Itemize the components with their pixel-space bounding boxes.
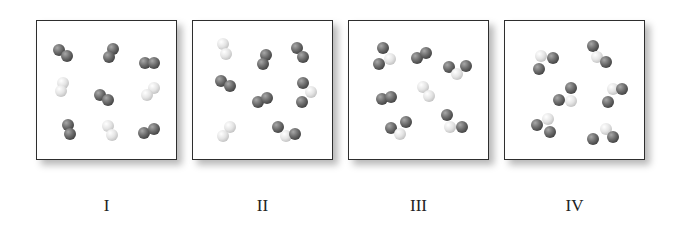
light-atom — [220, 48, 232, 60]
dark-atom — [400, 116, 412, 128]
molecule — [138, 123, 160, 139]
molecule — [141, 82, 160, 101]
dark-atom — [102, 94, 114, 106]
panel-label-iii: III — [348, 196, 489, 216]
molecule — [602, 83, 628, 108]
molecule — [385, 116, 412, 140]
dark-atom — [420, 47, 432, 59]
light-atom — [394, 128, 406, 140]
panel-iii — [348, 20, 489, 160]
dark-atom — [289, 128, 301, 140]
panel-i — [36, 20, 177, 160]
molecule — [533, 50, 559, 75]
molecule — [215, 75, 236, 92]
molecule — [376, 91, 397, 105]
dark-atom — [148, 123, 160, 135]
light-atom — [106, 129, 118, 141]
molecule — [62, 119, 76, 140]
dark-atom — [600, 56, 612, 68]
molecules-diagram-iii — [349, 21, 488, 159]
dark-atom — [385, 91, 397, 103]
molecules-diagram-iv — [505, 21, 644, 159]
molecule — [411, 47, 432, 64]
light-atom — [444, 121, 456, 133]
molecule — [103, 43, 119, 63]
dark-atom — [296, 96, 308, 108]
dark-atom — [460, 60, 472, 72]
molecule — [587, 40, 612, 68]
molecule — [373, 42, 396, 70]
molecule — [441, 109, 468, 133]
panel-label-iv: IV — [504, 196, 645, 216]
light-atom — [451, 68, 463, 80]
light-atom — [141, 89, 153, 101]
light-atom — [423, 90, 435, 102]
molecule — [272, 121, 301, 142]
light-atom — [55, 85, 67, 97]
dark-atom — [587, 40, 599, 52]
molecule — [443, 60, 472, 80]
dark-atom — [61, 50, 73, 62]
molecule — [257, 49, 272, 70]
molecule — [297, 77, 317, 98]
dark-atom — [441, 109, 453, 121]
dark-atom — [553, 94, 565, 106]
dark-atom — [257, 58, 269, 70]
light-atom — [542, 113, 554, 125]
light-atom — [217, 130, 229, 142]
molecule — [139, 57, 160, 69]
dark-atom — [103, 51, 115, 63]
molecule — [217, 121, 236, 142]
dark-atom — [377, 42, 389, 54]
dark-atom — [297, 51, 309, 63]
dark-atom — [224, 80, 236, 92]
dark-atom — [373, 58, 385, 70]
dark-atom — [148, 57, 160, 69]
molecule — [102, 120, 118, 141]
light-atom — [384, 53, 396, 65]
dark-atom — [456, 121, 468, 133]
molecule — [531, 113, 556, 138]
molecule — [217, 38, 232, 60]
light-atom — [535, 50, 547, 62]
light-atom — [305, 86, 317, 98]
molecule — [55, 77, 69, 97]
panel-ii — [192, 20, 333, 160]
dark-atom — [533, 63, 545, 75]
molecule — [53, 44, 73, 62]
molecules-diagram-ii — [193, 21, 332, 159]
panel-label-i: I — [36, 196, 177, 216]
dark-atom — [587, 133, 599, 145]
dark-atom — [297, 77, 309, 89]
panel-label-ii: II — [192, 196, 333, 216]
molecule — [417, 81, 435, 102]
dark-atom — [64, 128, 76, 140]
light-atom — [565, 95, 577, 107]
molecule — [553, 82, 577, 107]
dark-atom — [544, 126, 556, 138]
dark-atom — [272, 121, 284, 133]
dark-atom — [565, 82, 577, 94]
molecule — [94, 89, 114, 106]
molecule — [291, 42, 309, 63]
dark-atom — [531, 119, 543, 131]
molecule — [587, 123, 619, 145]
dark-atom — [607, 131, 619, 143]
dark-atom — [616, 83, 628, 95]
dark-atom — [261, 92, 273, 104]
dark-atom — [547, 52, 559, 64]
molecules-diagram-i — [37, 21, 176, 159]
molecule — [296, 96, 308, 108]
panel-iv — [504, 20, 645, 160]
dark-atom — [602, 96, 614, 108]
molecule — [252, 92, 273, 108]
